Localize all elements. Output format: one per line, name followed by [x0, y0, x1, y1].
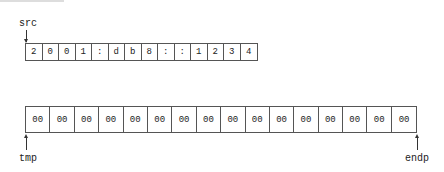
tmp-cell: 00: [221, 107, 245, 132]
src-cell: :: [158, 44, 175, 60]
tmp-cell: 00: [26, 107, 50, 132]
src-cell: 3: [224, 44, 241, 60]
src-pointer-label: src: [19, 19, 37, 29]
tmp-cell: 00: [197, 107, 221, 132]
src-cell: 0: [43, 44, 60, 60]
src-cell: 4: [241, 44, 258, 60]
src-cell: 2: [208, 44, 225, 60]
tmp-cell: 00: [343, 107, 367, 132]
src-cell: d: [109, 44, 126, 60]
tmp-cell: 00: [75, 107, 99, 132]
tmp-cell: 00: [148, 107, 172, 132]
src-array: 2 0 0 1 : d b 8 : : 1 2 3 4: [25, 43, 258, 61]
tmp-cell: 00: [172, 107, 196, 132]
tmp-array: 00 00 00 00 00 00 00 00 00 00 00 00 00 0…: [25, 106, 417, 133]
tmp-cell: 00: [246, 107, 270, 132]
tmp-cell: 00: [294, 107, 318, 132]
tmp-cell: 00: [99, 107, 123, 132]
tmp-cell: 00: [50, 107, 74, 132]
src-cell: :: [175, 44, 192, 60]
top-edge-artifact: [0, 0, 64, 2]
src-cell: 0: [59, 44, 76, 60]
endp-pointer-line: [417, 137, 418, 150]
endp-pointer-label: endp: [405, 154, 429, 164]
src-cell: 1: [76, 44, 93, 60]
tmp-pointer-line: [26, 137, 27, 150]
tmp-cell: 00: [270, 107, 294, 132]
src-cell: 8: [142, 44, 159, 60]
src-cell: 2: [26, 44, 43, 60]
src-cell: 1: [191, 44, 208, 60]
tmp-cell: 00: [319, 107, 343, 132]
src-cell: :: [92, 44, 109, 60]
tmp-cell: 00: [367, 107, 391, 132]
src-cell: b: [125, 44, 142, 60]
tmp-cell: 00: [124, 107, 148, 132]
tmp-pointer-label: tmp: [19, 154, 37, 164]
tmp-cell: 00: [392, 107, 416, 132]
